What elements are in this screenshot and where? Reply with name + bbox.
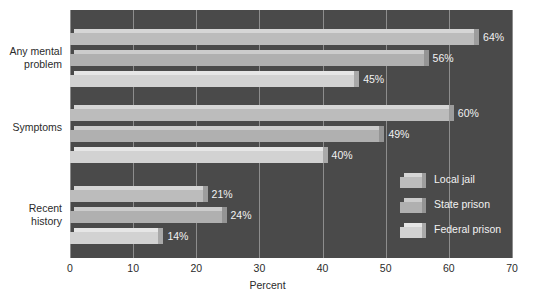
legend-item-federal-prison: Federal prison: [400, 220, 508, 242]
bar-front-face: [70, 190, 203, 202]
x-tick-label: 60: [443, 262, 455, 274]
legend: Local jail State prison Federal prison: [400, 170, 508, 245]
legend-swatch-icon: [400, 223, 426, 238]
bar: 21%: [70, 186, 203, 198]
bar-value-label: 60%: [458, 107, 479, 120]
category-label: Recenthistory: [0, 202, 62, 227]
x-axis-title: Percent: [0, 279, 535, 291]
legend-label: State prison: [434, 198, 490, 211]
bar-end-cap: [158, 228, 163, 244]
bar-value-label: 14%: [167, 230, 188, 243]
bar-end-cap: [354, 71, 359, 87]
bar-front-face: [70, 211, 222, 223]
category-label-line: Recent: [0, 202, 62, 215]
bar-front-face: [70, 151, 323, 163]
x-tick-label: 10: [127, 262, 139, 274]
x-tick-label: 50: [380, 262, 392, 274]
bar: 60%: [70, 105, 449, 117]
bar-chart: 64%56%45%60%49%40%21%24%14% Any mentalpr…: [0, 0, 535, 300]
gridline: [512, 10, 513, 258]
bar-value-label: 45%: [363, 73, 384, 86]
bar-value-label: 21%: [212, 188, 233, 201]
bar-end-cap: [222, 207, 227, 223]
bar-end-cap: [323, 147, 328, 163]
category-label-line: Symptoms: [0, 121, 62, 134]
bar-value-label: 56%: [433, 52, 454, 65]
bar: 64%: [70, 29, 474, 41]
category-label-line: history: [0, 215, 62, 228]
bar-end-cap: [203, 186, 208, 202]
bar: 56%: [70, 50, 424, 62]
bar: 49%: [70, 126, 379, 138]
bar-end-cap: [424, 50, 429, 66]
bar: 45%: [70, 71, 354, 83]
bar-value-label: 49%: [388, 128, 409, 141]
legend-label: Local jail: [434, 173, 475, 186]
bar-front-face: [70, 75, 354, 87]
bar-front-face: [70, 33, 474, 45]
bar-value-label: 24%: [231, 209, 252, 222]
bar-value-label: 40%: [332, 149, 353, 162]
bar-end-cap: [379, 126, 384, 142]
plot-area: 64%56%45%60%49%40%21%24%14% Any mentalpr…: [70, 10, 512, 258]
legend-label: Federal prison: [434, 223, 501, 236]
category-label-line: problem: [0, 58, 62, 71]
bar: 14%: [70, 228, 158, 240]
bar-value-label: 64%: [483, 31, 504, 44]
legend-item-state-prison: State prison: [400, 195, 508, 217]
bar-end-cap: [474, 29, 479, 45]
bar: 40%: [70, 147, 323, 159]
x-tick-label: 40: [317, 262, 329, 274]
bar-front-face: [70, 54, 424, 66]
legend-swatch-icon: [400, 173, 426, 188]
x-tick-label: 0: [67, 262, 73, 274]
category-label: Symptoms: [0, 121, 62, 134]
gridline: [386, 10, 387, 258]
bar-front-face: [70, 130, 379, 142]
bar-end-cap: [449, 105, 454, 121]
bar-front-face: [70, 232, 158, 244]
x-tick-label: 70: [506, 262, 518, 274]
legend-swatch-icon: [400, 198, 426, 213]
x-tick-label: 20: [190, 262, 202, 274]
legend-item-local-jail: Local jail: [400, 170, 508, 192]
bar: 24%: [70, 207, 222, 219]
category-label-line: Any mental: [0, 45, 62, 58]
category-label: Any mentalproblem: [0, 45, 62, 70]
bar-front-face: [70, 109, 449, 121]
x-tick-label: 30: [254, 262, 266, 274]
